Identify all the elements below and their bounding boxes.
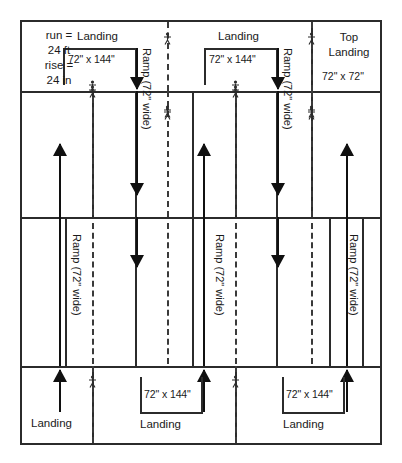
- person-icon: [162, 105, 173, 118]
- ramp-label-r3-b: Ramp (72" wide): [214, 234, 226, 316]
- person-icon: [306, 32, 317, 45]
- ramp-edge-r3-c: [192, 217, 194, 366]
- person-icon: [230, 375, 241, 388]
- row-divider-3: [22, 366, 380, 368]
- ramp-edge-r2-c: [192, 91, 194, 217]
- landing-2-dimension-label: 72" x 144": [209, 53, 256, 65]
- rise-label: rise =: [28, 58, 90, 73]
- handrail-dashed-r2-c: [235, 97, 237, 215]
- ramp-label-r3-a: Ramp (72" wide): [71, 234, 83, 316]
- bottom-landing-2-title: Landing: [140, 418, 181, 430]
- ramp-edge-r3-e: [329, 217, 331, 366]
- run-label: run =: [28, 28, 90, 43]
- diagram-outer-frame: Landing 72" x 144" Landing 72" x 144" To…: [20, 20, 382, 445]
- bottom-landing-3-title: Landing: [283, 418, 324, 430]
- landing-2-title: Landing: [218, 30, 259, 42]
- travel-shaft-up-r3-b: [197, 217, 211, 366]
- travel-shaft-up-r3-a: [53, 217, 67, 366]
- top-landing-title-line1: Top: [321, 30, 377, 45]
- run-value: 24 ft: [28, 43, 90, 58]
- ramp-label-r2-a: Ramp (72" wide): [141, 48, 153, 130]
- travel-arrow-down-r3-b: [271, 217, 285, 267]
- travel-arrow-down-r3-a: [130, 217, 144, 267]
- travel-arrow-up-r2-a: [53, 144, 67, 219]
- ramp-label-r2-b: Ramp (72" wide): [282, 48, 294, 130]
- travel-arrow-up-r4-a: [53, 370, 67, 412]
- bottom-landing-3-dimension-label: 72" x 144": [286, 388, 333, 400]
- travel-arrow-up-r2-b: [197, 144, 211, 219]
- handrail-dashed-r3-d: [311, 223, 313, 364]
- travel-arrow-up-r2-c: [340, 144, 354, 219]
- row-divider-1: [22, 91, 380, 93]
- person-icon: [230, 85, 241, 98]
- top-landing-title-block: Top Landing: [321, 30, 377, 60]
- handrail-dashed-r3-c: [235, 223, 237, 364]
- person-icon: [306, 105, 317, 118]
- person-icon: [87, 375, 98, 388]
- handrail-dashed-r2-a: [92, 97, 94, 215]
- bottom-landing-1-title: Landing: [31, 417, 72, 429]
- rise-value: 24 in: [28, 73, 90, 88]
- handrail-dashed-r3-b: [167, 223, 169, 364]
- ramp-label-r3-c: Ramp (72" wide): [348, 234, 360, 316]
- top-landing-title-line2: Landing: [321, 45, 377, 60]
- ramp-plan-diagram: Landing 72" x 144" Landing 72" x 144" To…: [0, 0, 402, 463]
- ramp-edge-r3-f: [362, 217, 364, 366]
- top-landing-dimension-label: 72" x 72": [322, 70, 364, 82]
- person-icon: [87, 85, 98, 98]
- handrail-dashed-r3-a: [92, 223, 94, 364]
- bottom-landing-2-dimension-label: 72" x 144": [144, 388, 191, 400]
- person-icon: [162, 32, 173, 45]
- run-rise-stats-block: run = 24 ft rise = 24 in: [28, 28, 90, 88]
